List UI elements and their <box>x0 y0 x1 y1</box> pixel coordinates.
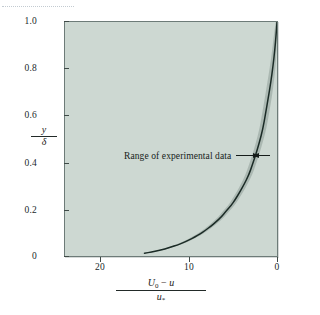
velocity-defect-curve <box>145 22 278 253</box>
y-axis-title: y δ <box>31 125 57 147</box>
y-axis-numerator: y <box>31 125 57 137</box>
y-tick-0.2 <box>64 210 69 211</box>
page-dotted-rule <box>2 6 74 8</box>
x-axis-title: U0 − u u* <box>116 278 206 304</box>
x-axis-u0-symbol: U <box>148 277 155 288</box>
x-axis-denominator: u* <box>116 291 206 303</box>
plot-area <box>64 21 278 257</box>
experimental-data-band <box>141 22 277 254</box>
y-tick-0.8 <box>64 68 69 69</box>
x-axis-u-symbol: u <box>169 277 174 288</box>
x-ticklabel-10: 10 <box>174 262 204 272</box>
y-tick-0.4 <box>64 163 69 164</box>
annotation-right-arrow-group <box>253 149 270 162</box>
y-tick-0.6 <box>64 115 69 116</box>
y-ticklabel-0.4: 0.4 <box>25 158 37 168</box>
x-ticklabel-0: 0 <box>262 262 292 272</box>
x-axis-numerator: U0 − u <box>116 278 206 291</box>
y-ticklabel-0.8: 0.8 <box>25 63 37 73</box>
x-axis-ustar-subscript: * <box>162 295 166 303</box>
experimental-data-annotation: Range of experimental data <box>124 149 260 162</box>
y-axis-denominator: δ <box>31 137 57 148</box>
arrow-left-icon <box>253 151 270 160</box>
figure-canvas: 1.0 0.8 0.6 0.4 0.2 0 20 10 0 y δ U0 − u… <box>0 0 320 315</box>
y-ticklabel-1.0: 1.0 <box>25 16 37 26</box>
annotation-label: Range of experimental data <box>124 151 231 161</box>
y-tick-0 <box>64 256 69 257</box>
plot-inner <box>65 22 277 256</box>
y-ticklabel-0.6: 0.6 <box>25 110 37 120</box>
chart-svg <box>65 22 277 256</box>
y-ticklabel-0.2: 0.2 <box>25 205 37 215</box>
x-ticklabel-20: 20 <box>85 262 115 272</box>
y-ticklabel-0: 0 <box>32 251 37 261</box>
x-axis-minus-sign: − <box>159 277 170 288</box>
y-tick-1.0 <box>64 21 69 22</box>
